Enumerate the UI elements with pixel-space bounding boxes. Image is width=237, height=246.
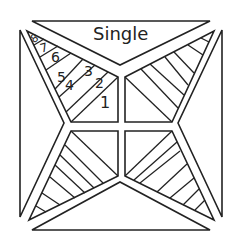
piece-number-3: 3 <box>84 64 93 78</box>
piece-number-4: 4 <box>65 78 74 92</box>
piece-number-6: 6 <box>51 50 60 64</box>
block-title: Single <box>93 25 148 43</box>
piece-number-2: 2 <box>95 76 104 90</box>
quilt-block-diagram: Single 8 7 6 5 4 3 2 1 <box>0 0 237 246</box>
piece-number-1: 1 <box>100 95 110 111</box>
